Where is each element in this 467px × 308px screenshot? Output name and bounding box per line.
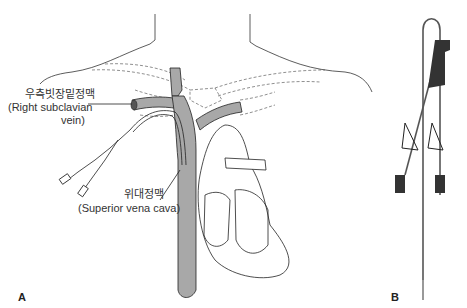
anatomy-illustration <box>0 0 467 308</box>
clavicle-dashed <box>92 64 325 117</box>
svc-label-ko: 위대정맥 <box>124 188 164 201</box>
subclavian-label-ko: 우측빗장밑정맥 <box>25 88 95 101</box>
subclavian-label-en2: vein) <box>61 114 85 127</box>
leader-lines <box>88 104 180 200</box>
panel-label-a: A <box>18 291 26 303</box>
svc-label-en: (Superior vena cava) <box>78 202 180 215</box>
heart <box>198 125 289 278</box>
panel-label-b: B <box>391 291 399 303</box>
subclavian-label-en1: (Right subclavian <box>8 101 92 114</box>
body-outline <box>40 14 372 92</box>
